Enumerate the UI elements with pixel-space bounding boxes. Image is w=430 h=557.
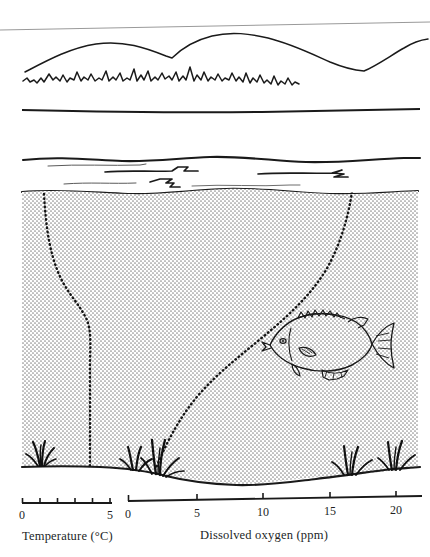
lake-profile-figure: 0 5 Temperature (°C) 0 5 10 15 20 Dissol… — [0, 0, 430, 557]
dissolved-oxygen-axis-line — [128, 496, 422, 501]
temperature-tick-label-5: 5 — [107, 508, 113, 522]
dissolved-oxygen-tick-label-10: 10 — [257, 505, 269, 519]
dissolved-oxygen-tick-label-20: 20 — [390, 503, 402, 517]
ripple-line-1 — [48, 164, 146, 166]
temperature-axis-label: Temperature (°C) — [22, 529, 113, 543]
temperature-tick-label-0: 0 — [19, 508, 25, 522]
figure-canvas: 0 5 Temperature (°C) 0 5 10 15 20 Dissol… — [0, 0, 430, 557]
shore-baseline — [22, 109, 420, 112]
dissolved-oxygen-axis: 0 5 10 15 20 Dissolved oxygen (ppm) — [125, 491, 422, 542]
near-shore-line — [22, 109, 420, 112]
tree-line — [23, 67, 299, 85]
treeline-path — [23, 67, 299, 85]
ripple-line-5 — [150, 179, 180, 187]
dissolved-oxygen-tick-label-5: 5 — [194, 506, 200, 520]
water-surface — [22, 157, 420, 194]
dissolved-oxygen-axis-label: Dissolved oxygen (ppm) — [200, 528, 328, 542]
distant-hills — [25, 33, 428, 72]
ripple-line-6 — [192, 185, 300, 186]
water-fill — [22, 189, 418, 484]
dissolved-oxygen-tick-label-0: 0 — [125, 507, 131, 521]
temperature-axis: 0 5 Temperature (°C) — [19, 498, 113, 543]
ripple-line-4 — [64, 183, 136, 184]
water-surface-top-line — [23, 157, 420, 162]
sky-band — [0, 22, 430, 30]
water-body — [22, 189, 418, 484]
fish-pupil — [282, 340, 284, 342]
dissolved-oxygen-tick-label-15: 15 — [324, 504, 336, 518]
far-shore-line — [0, 22, 430, 30]
ripple-line-2 — [105, 167, 198, 172]
ripple-line-3 — [258, 170, 348, 177]
hill-ridge-line — [25, 33, 428, 72]
